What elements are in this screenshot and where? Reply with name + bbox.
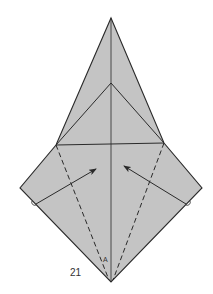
origami-diagram: [0, 0, 213, 294]
point-label-a: A: [103, 256, 108, 263]
step-number: 21: [70, 267, 81, 278]
